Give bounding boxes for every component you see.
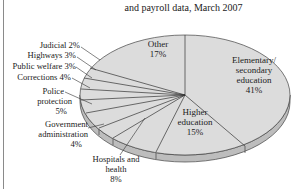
label-police-2: protection [37, 96, 73, 106]
label-gov-2: administration [38, 129, 88, 139]
label-gov-3: 4% [71, 139, 82, 149]
label-higher-1: Higher [183, 107, 208, 117]
label-other-2: 17% [150, 49, 167, 59]
label-hospitals-1: Hospitals and [92, 154, 140, 164]
label-other-1: Other [148, 39, 169, 49]
label-elementary-3: education [237, 75, 272, 85]
label-police-3: 5% [56, 106, 67, 116]
label-highways: Highways 3% [28, 50, 76, 60]
label-corrections: Corrections 4% [17, 72, 71, 82]
label-hospitals-3: 8% [110, 174, 121, 184]
label-hospitals-2: health [106, 164, 128, 174]
pie-chart: Elementary/ secondary education 41% High… [0, 0, 297, 189]
label-judicial: Judicial 2% [40, 40, 80, 50]
label-police-1: Police [43, 86, 65, 96]
label-gov-1: Government [45, 119, 89, 129]
label-higher-2: education [178, 117, 213, 127]
label-higher-3: 15% [187, 127, 204, 137]
label-public-welfare: Public welfare 3% [13, 61, 76, 71]
label-elementary-2: secondary [236, 65, 273, 75]
label-elementary-4: 41% [246, 85, 263, 95]
label-elementary-1: Elementary/ [232, 55, 276, 65]
